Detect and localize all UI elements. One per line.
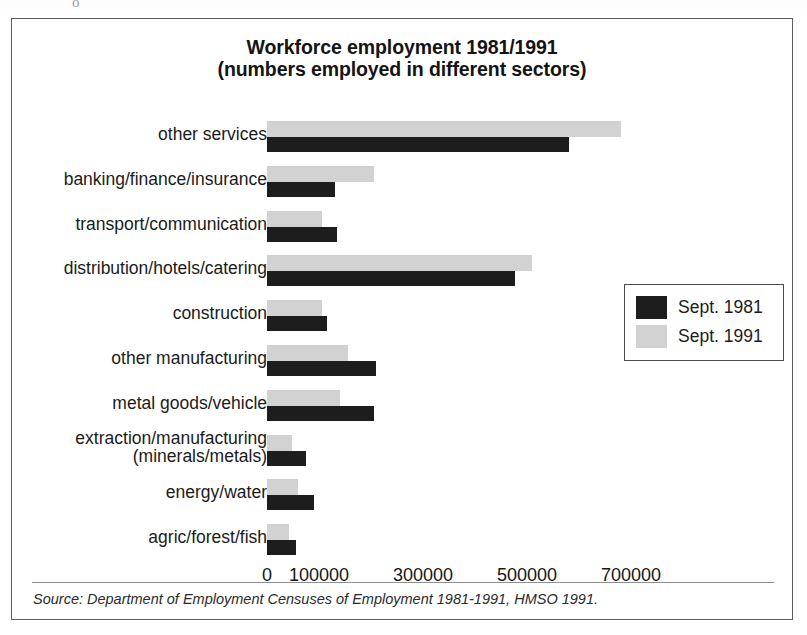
category-label-line: transport/communication: [19, 215, 267, 234]
bar-sept-1981: [267, 271, 515, 286]
category-label: distribution/hotels/catering: [19, 259, 267, 278]
bar-group: [267, 524, 787, 557]
bar-group: [267, 435, 787, 468]
bar-sept-1991: [267, 345, 348, 361]
category-label-line: banking/finance/insurance: [19, 170, 267, 189]
category-row: extraction/manufacturing(minerals/metals…: [12, 429, 794, 474]
category-label: transport/communication: [19, 215, 267, 234]
category-label-line: (minerals/metals): [19, 447, 267, 466]
bar-sept-1981: [267, 451, 306, 466]
category-row: banking/finance/insurance: [12, 160, 794, 205]
legend-label-1981: Sept. 1981: [678, 297, 763, 318]
category-row: other services: [12, 115, 794, 160]
bar-group: [267, 479, 787, 512]
bar-sept-1981: [267, 227, 337, 242]
bar-sept-1991: [267, 211, 322, 227]
bar-group: [267, 211, 787, 244]
bar-sept-1991: [267, 435, 292, 451]
category-label: extraction/manufacturing(minerals/metals…: [19, 429, 267, 467]
figure-frame: Workforce employment 1981/1991 (numbers …: [11, 18, 793, 620]
category-label: other manufacturing: [19, 349, 267, 368]
chart-subtitle: (numbers employed in different sectors): [12, 59, 792, 81]
scan-artifact-strip: o: [0, 0, 807, 10]
bar-group: [267, 390, 787, 423]
chart-title-block: Workforce employment 1981/1991 (numbers …: [12, 37, 792, 81]
category-label-line: construction: [19, 304, 267, 323]
category-label-line: metal goods/vehicle: [19, 394, 267, 413]
bar-sept-1981: [267, 361, 376, 376]
category-label-line: other services: [19, 125, 267, 144]
bar-sept-1981: [267, 406, 374, 421]
scan-artifact-glyph: o: [72, 0, 80, 11]
bar-sept-1991: [267, 121, 621, 137]
category-row: energy/water: [12, 473, 794, 518]
bar-sept-1991: [267, 390, 340, 406]
chart-title: Workforce employment 1981/1991: [12, 37, 792, 59]
category-label: metal goods/vehicle: [19, 394, 267, 413]
bar-sept-1981: [267, 182, 335, 197]
category-label-line: agric/forest/fish: [19, 528, 267, 547]
legend-label-1991: Sept. 1991: [678, 326, 763, 347]
bar-sept-1991: [267, 479, 298, 495]
category-label-line: other manufacturing: [19, 349, 267, 368]
category-label: agric/forest/fish: [19, 528, 267, 547]
bar-sept-1991: [267, 166, 374, 182]
bar-sept-1991: [267, 524, 289, 540]
x-axis: 0100000300000500000700000: [12, 565, 794, 593]
bar-sept-1981: [267, 540, 296, 555]
black-swatch-icon: [636, 296, 667, 319]
category-label: banking/finance/insurance: [19, 170, 267, 189]
source-note: Source: Department of Employment Censuse…: [33, 591, 598, 607]
grey-swatch-icon: [636, 325, 667, 348]
bar-sept-1991: [267, 300, 322, 316]
bar-sept-1981: [267, 137, 569, 152]
source-divider: [32, 582, 774, 583]
category-row: agric/forest/fish: [12, 518, 794, 563]
legend-item-1981: Sept. 1981: [636, 293, 774, 322]
category-row: metal goods/vehicle: [12, 384, 794, 429]
chart-legend: Sept. 1981 Sept. 1991: [624, 284, 784, 361]
bar-sept-1981: [267, 316, 327, 331]
category-label: other services: [19, 125, 267, 144]
category-label: construction: [19, 304, 267, 323]
bar-sept-1981: [267, 495, 314, 510]
bar-group: [267, 121, 787, 154]
category-label-line: energy/water: [19, 483, 267, 502]
category-label-line: distribution/hotels/catering: [19, 259, 267, 278]
category-label-line: extraction/manufacturing: [19, 429, 267, 448]
bar-sept-1991: [267, 255, 532, 271]
legend-item-1991: Sept. 1991: [636, 322, 774, 351]
bar-group: [267, 166, 787, 199]
category-label: energy/water: [19, 483, 267, 502]
category-row: transport/communication: [12, 205, 794, 250]
